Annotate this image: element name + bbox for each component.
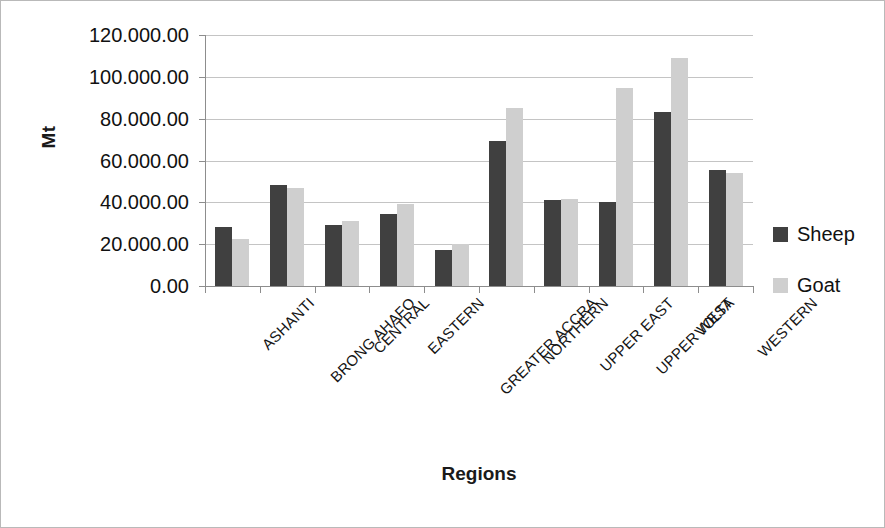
bar-goat[interactable]: [397, 204, 414, 286]
bar-goat[interactable]: [561, 199, 578, 286]
bar-goat[interactable]: [726, 173, 743, 286]
x-axis-tick-mark: [534, 286, 535, 293]
bar-group: [643, 35, 698, 286]
x-axis-category-label: BRONG AHAFO: [327, 294, 418, 385]
legend-swatch-icon: [773, 227, 788, 242]
x-axis-tick-mark: [369, 286, 370, 293]
y-axis-tick-mark: [199, 77, 206, 78]
bar-sheep[interactable]: [599, 202, 616, 286]
x-axis-tick-mark: [753, 286, 754, 293]
bar-goat[interactable]: [616, 88, 633, 286]
y-axis-tick-mark: [199, 244, 206, 245]
legend-item-sheep[interactable]: Sheep: [773, 223, 878, 246]
x-axis-category-label: EASTERN: [425, 294, 488, 357]
bar-group: [589, 35, 644, 286]
y-axis-tick-label: 100.000.00: [89, 65, 189, 88]
x-axis-tick-mark: [260, 286, 261, 293]
legend-swatch-icon: [773, 278, 788, 293]
y-axis-tick-mark: [199, 35, 206, 36]
bar-group: [479, 35, 534, 286]
bar-sheep[interactable]: [380, 214, 397, 286]
bar-group: [260, 35, 315, 286]
y-axis-tick-labels: 0.0020.000.0040.000.0060.000.0080.000.00…: [61, 35, 197, 286]
bar-sheep[interactable]: [270, 185, 287, 286]
bar-sheep[interactable]: [709, 170, 726, 286]
x-axis-tick-mark: [205, 286, 206, 293]
bar-goat[interactable]: [452, 244, 469, 286]
bar-sheep[interactable]: [654, 112, 671, 286]
bar-sheep[interactable]: [325, 225, 342, 286]
x-axis-tick-mark: [589, 286, 590, 293]
y-axis-tick-mark: [199, 119, 206, 120]
bar-goat[interactable]: [342, 221, 359, 286]
chart-legend: SheepGoat: [773, 223, 878, 325]
bars-layer: [205, 35, 753, 286]
y-axis-tick-mark: [199, 202, 206, 203]
bar-goat[interactable]: [506, 108, 523, 286]
x-axis-tick-mark: [479, 286, 480, 293]
x-axis-tick-mark: [424, 286, 425, 293]
bar-group: [534, 35, 589, 286]
x-axis-tick-mark: [698, 286, 699, 293]
bar-sheep[interactable]: [215, 227, 232, 286]
chart-container: Mt 0.0020.000.0040.000.0060.000.0080.000…: [0, 0, 885, 528]
x-axis-category-label: NORTHERN: [538, 294, 611, 367]
x-axis-tick-mark: [315, 286, 316, 293]
bar-group: [424, 35, 479, 286]
x-axis-title: Regions: [205, 463, 753, 485]
legend-label: Sheep: [797, 223, 855, 246]
y-axis-tick-label: 20.000.00: [100, 233, 189, 256]
plot-area: [205, 35, 753, 286]
x-axis-category-labels: ASHANTIBRONG AHAFOCENTRALEASTERNGREATER …: [205, 294, 753, 404]
bar-goat[interactable]: [287, 188, 304, 286]
y-axis-title: Mt: [38, 107, 60, 167]
bar-group: [315, 35, 370, 286]
y-axis-tick-label: 80.000.00: [100, 107, 189, 130]
bar-group: [369, 35, 424, 286]
bar-group: [698, 35, 753, 286]
legend-item-goat[interactable]: Goat: [773, 274, 878, 297]
legend-label: Goat: [797, 274, 840, 297]
y-axis-tick-label: 0.00: [150, 275, 189, 298]
bar-sheep[interactable]: [489, 141, 506, 286]
y-axis-tick-label: 120.000.00: [89, 24, 189, 47]
y-axis-tick-mark: [199, 161, 206, 162]
x-axis-category-label: ASHANTI: [258, 294, 317, 353]
bar-goat[interactable]: [232, 239, 249, 286]
x-axis-category-label: VOLTA: [691, 294, 737, 340]
bar-goat[interactable]: [671, 58, 688, 286]
bar-group: [205, 35, 260, 286]
y-axis-tick-label: 40.000.00: [100, 191, 189, 214]
x-axis-tick-marks: [205, 286, 753, 294]
bar-sheep[interactable]: [435, 250, 452, 286]
y-axis-tick-label: 60.000.00: [100, 149, 189, 172]
x-axis-tick-mark: [643, 286, 644, 293]
bar-sheep[interactable]: [544, 200, 561, 286]
